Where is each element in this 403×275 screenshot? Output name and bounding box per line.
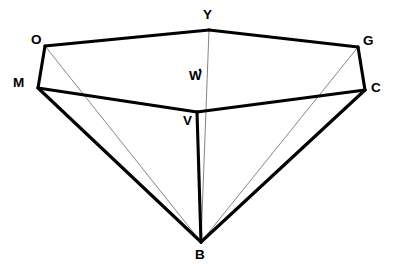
edge-V-C — [197, 90, 365, 112]
edge-O-M — [38, 46, 45, 88]
edge-G-C — [358, 47, 365, 90]
vertex-label-v: V — [183, 114, 192, 128]
vertex-label-m: M — [13, 76, 24, 90]
vertex-label-y: Y — [203, 8, 212, 22]
edge-Y-B — [201, 30, 209, 242]
edge-O-Y — [45, 30, 209, 46]
edge-M-V — [38, 88, 197, 112]
edge-G-B — [201, 47, 358, 242]
vertex-label-w: W — [189, 69, 202, 83]
edge-Y-G — [209, 30, 358, 47]
vertex-label-o: O — [31, 33, 42, 47]
edge-C-B — [201, 90, 365, 242]
vertex-label-b: B — [195, 248, 205, 262]
thick-edge-group — [38, 30, 365, 242]
vertex-label-g: G — [363, 34, 374, 48]
edge-O-B — [45, 46, 201, 242]
edge-V-B — [197, 112, 201, 242]
figure-canvas — [0, 0, 403, 275]
vertex-label-c: C — [371, 81, 381, 95]
edge-M-B — [38, 88, 201, 242]
geometric-diagram: OYGMCWVB — [0, 0, 403, 275]
